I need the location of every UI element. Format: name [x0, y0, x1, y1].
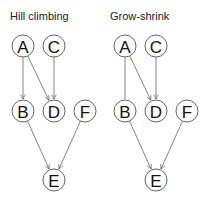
node-b-panel-2: B	[114, 100, 136, 122]
node-f-panel-1: F	[74, 100, 96, 122]
node-b-panel-1: B	[12, 100, 34, 122]
svg-text:D: D	[150, 103, 162, 122]
svg-text:E: E	[150, 172, 161, 191]
node-e-panel-2: E	[145, 169, 167, 191]
svg-text:B: B	[119, 103, 130, 122]
svg-text:C: C	[48, 38, 60, 57]
svg-text:F: F	[182, 103, 192, 122]
node-d-panel-1: D	[43, 100, 65, 122]
svg-text:A: A	[17, 38, 29, 57]
node-c-panel-1: C	[43, 35, 65, 57]
bayesian-network-comparison: Hill climbing Grow-shrink ACBDFEACBDFE	[0, 0, 211, 202]
node-a-panel-2: A	[114, 35, 136, 57]
svg-text:D: D	[48, 103, 60, 122]
node-d-panel-2: D	[145, 100, 167, 122]
edge-f-e-arrow	[59, 121, 81, 169]
edge-b-e-arrow	[28, 121, 50, 169]
svg-text:B: B	[17, 103, 28, 122]
svg-text:C: C	[150, 38, 162, 57]
edge-b-e-arrow	[130, 121, 152, 169]
node-e-panel-1: E	[43, 169, 65, 191]
svg-text:A: A	[119, 38, 131, 57]
edge-a-d-arrow	[28, 56, 49, 100]
svg-text:F: F	[80, 103, 90, 122]
edge-f-e-arrow	[161, 121, 183, 169]
edge-a-d-arrow	[130, 56, 151, 100]
node-f-panel-2: F	[176, 100, 198, 122]
node-a-panel-1: A	[12, 35, 34, 57]
svg-text:E: E	[48, 172, 59, 191]
network-graphs: ACBDFEACBDFE	[0, 0, 211, 202]
node-c-panel-2: C	[145, 35, 167, 57]
